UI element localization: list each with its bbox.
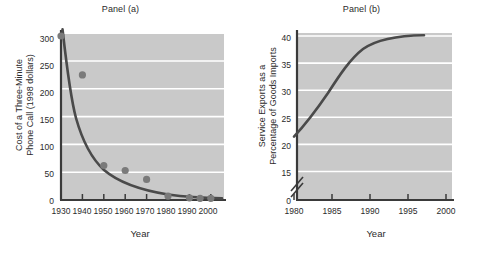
data-point-1960 — [122, 167, 129, 174]
data-point-2000 — [207, 195, 214, 202]
data-point-1990 — [186, 194, 193, 201]
panel-b: Panel (b) Service Exports as a Percentag… — [241, 0, 482, 253]
data-point-1950 — [100, 162, 107, 169]
panel-b-plot — [241, 0, 482, 253]
data-point-1995 — [197, 195, 204, 202]
panel-a-plot — [0, 0, 241, 253]
data-point-1930 — [57, 32, 64, 39]
data-point-1940 — [79, 71, 86, 78]
data-point-1970 — [143, 176, 150, 183]
data-point-1980 — [164, 193, 171, 200]
panel-a: Panel (a) Cost of a Three-Minute Phone C… — [0, 0, 241, 253]
figure-root: Panel (a) Cost of a Three-Minute Phone C… — [0, 0, 482, 253]
